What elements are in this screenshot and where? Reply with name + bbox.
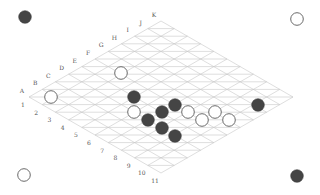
- column-label: K: [152, 11, 157, 18]
- black-stone[interactable]: [156, 106, 169, 119]
- row-label: 11: [151, 177, 159, 184]
- hex-board[interactable]: ABCDEFGHIJK1234567891011: [0, 0, 320, 195]
- corner-marker-bottom-left: [18, 169, 31, 182]
- black-stone[interactable]: [156, 122, 169, 135]
- white-stone[interactable]: [223, 114, 236, 127]
- row-label: 9: [127, 162, 131, 169]
- column-label: E: [73, 57, 77, 64]
- white-stone[interactable]: [115, 67, 128, 80]
- column-label: G: [99, 41, 104, 48]
- board-grid: [29, 21, 293, 173]
- corner-marker-bottom-right: [291, 170, 304, 183]
- corner-marker-top-left: [19, 11, 32, 24]
- black-stone[interactable]: [169, 130, 182, 143]
- black-stone[interactable]: [128, 91, 141, 104]
- row-label: 5: [74, 131, 78, 138]
- black-stone[interactable]: [169, 99, 182, 112]
- black-stone[interactable]: [142, 114, 155, 127]
- black-stone[interactable]: [252, 99, 265, 112]
- white-stone[interactable]: [45, 91, 58, 104]
- column-label: F: [86, 49, 90, 56]
- row-label: 7: [100, 147, 104, 154]
- column-label: J: [139, 19, 143, 27]
- column-label: A: [19, 87, 25, 94]
- white-stone[interactable]: [128, 106, 141, 119]
- row-label: 6: [87, 139, 91, 146]
- row-label: 10: [138, 169, 146, 176]
- white-stone[interactable]: [182, 106, 195, 119]
- column-label: D: [59, 64, 64, 71]
- white-stone[interactable]: [209, 106, 222, 119]
- column-label: H: [112, 34, 117, 41]
- white-stone[interactable]: [196, 114, 209, 127]
- row-label: 2: [34, 109, 38, 116]
- column-label: C: [46, 72, 51, 79]
- row-label: 1: [21, 101, 25, 108]
- corner-marker-top-right: [291, 13, 304, 26]
- row-label: 8: [113, 154, 117, 161]
- column-label: I: [126, 26, 129, 33]
- column-label: B: [33, 79, 38, 86]
- row-label: 3: [47, 116, 51, 123]
- row-label: 4: [61, 124, 65, 131]
